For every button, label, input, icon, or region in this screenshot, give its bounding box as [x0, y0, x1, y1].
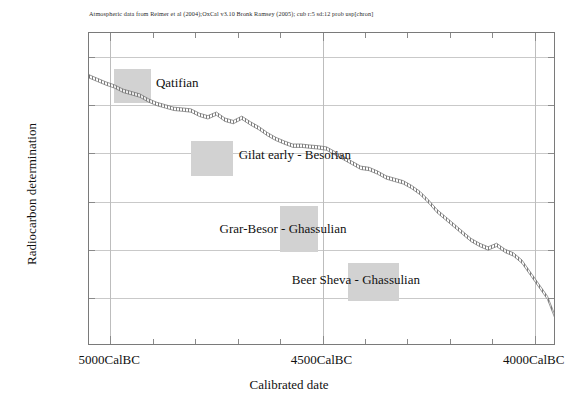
period-label: Gilat early - Besorian [239, 147, 351, 163]
x-axis-tick-label: 5000CalBC [79, 352, 140, 368]
y-axis-title: Radiocarbon determination [24, 84, 40, 304]
period-label: Qatifian [156, 75, 199, 91]
x-axis-tick-label: 4500CalBC [291, 352, 352, 368]
x-axis-title: Calibrated date [0, 377, 578, 393]
chart-caption: Atmospheric data from Reimer et al (2004… [89, 10, 373, 17]
period-label: Beer Sheva - Ghassulian [292, 272, 420, 288]
x-axis-tick-label: 4000CalBC [503, 352, 564, 368]
period-label: Grar-Besor - Ghassulian [220, 221, 347, 237]
